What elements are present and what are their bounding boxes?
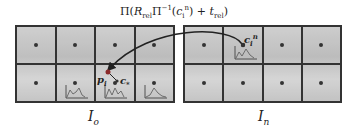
projection-arrow [0,0,354,130]
c-star-label: c* [120,75,130,89]
label-new-image: In [258,108,269,127]
c-i-n-label: cin [244,32,258,48]
label-old-image: Io [88,108,99,127]
p-i-label: pi [97,74,107,88]
